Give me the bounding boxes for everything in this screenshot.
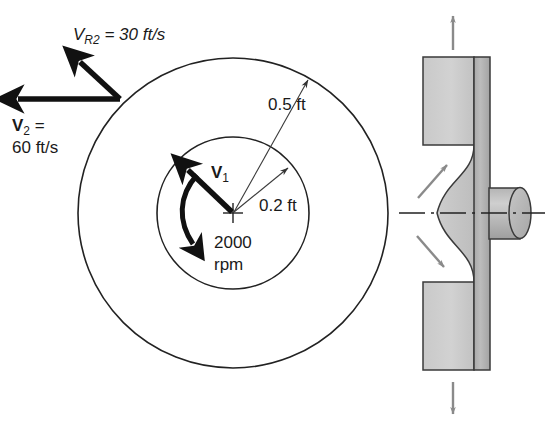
- flow-arrow-lower: [417, 236, 444, 267]
- vr2-label: VR2 = 30 ft/s: [73, 25, 166, 47]
- outer-radius-label: 0.5 ft: [268, 95, 306, 114]
- inner-radius-label: 0.2 ft: [259, 196, 297, 215]
- figure-root: VR2 = 30 ft/s V2 = 60 ft/s V1 0.5 ft 0.2…: [0, 0, 554, 426]
- rotation-label-line2: rpm: [214, 255, 243, 274]
- v1-subscript: 1: [222, 171, 229, 185]
- shroud-block-upper: [423, 57, 474, 145]
- v1-symbol: V: [211, 163, 223, 182]
- flow-arrow-upper: [418, 165, 447, 198]
- rotation-arc-arrow: [182, 175, 197, 244]
- rotation-label-line1: 2000: [214, 233, 252, 252]
- impeller-diagram: VR2 = 30 ft/s V2 = 60 ft/s V1 0.5 ft 0.2…: [0, 0, 554, 426]
- v2-label-line1: V2 =: [12, 116, 45, 138]
- nozzle-section-view: [399, 16, 545, 414]
- v2-equals: =: [30, 116, 45, 135]
- vr2-subscript: R2: [84, 33, 100, 47]
- v1-label: V1: [211, 163, 229, 185]
- shroud-block-lower: [423, 282, 474, 370]
- impeller-plan-view: VR2 = 30 ft/s V2 = 60 ft/s V1 0.5 ft 0.2…: [12, 25, 388, 368]
- v2-symbol: V: [12, 116, 24, 135]
- v2-label-line2: 60 ft/s: [12, 138, 58, 157]
- vr2-vector-arrow: [80, 62, 120, 99]
- vr2-value: = 30 ft/s: [100, 25, 166, 44]
